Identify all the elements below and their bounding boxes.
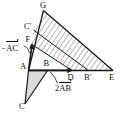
vector-label-minus-AC: −AC [2, 44, 19, 53]
point-label-G: G [40, 1, 46, 10]
vector-AB-body: AB [59, 84, 71, 93]
point-label-E: E [109, 73, 114, 82]
leader-2AB [50, 72, 57, 84]
vector-AC-body: AC [6, 44, 18, 53]
vector-overbar [59, 82, 71, 83]
leader-minusAC [24, 46, 30, 54]
point-label-F: F [26, 35, 31, 44]
vector-AC-text: AC [6, 43, 18, 53]
vector-arrow-tip-icon [70, 79, 72, 81]
point-label-B-prime: B′ [84, 73, 92, 82]
vector-AB-text: AB [59, 83, 71, 93]
point-label-C-prime: C′ [24, 22, 32, 31]
diagram-canvas [0, 0, 124, 115]
point-label-A: A [20, 62, 26, 71]
geometry-figure: G C′ F A B C D B′ E −AC 2AB [0, 0, 124, 115]
vector-arrow-tip-icon [17, 39, 19, 41]
vector-overbar [6, 41, 18, 42]
point-label-B: B [44, 59, 50, 68]
point-label-C: C [19, 102, 25, 111]
vector-label-two-AB: 2AB [55, 84, 71, 93]
